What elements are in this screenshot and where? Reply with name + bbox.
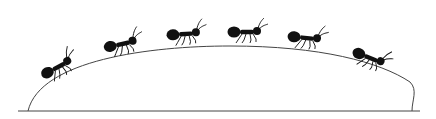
ant-4: [228, 18, 269, 43]
ant-3: [166, 18, 208, 46]
ants-over-hill-illustration: [0, 0, 436, 119]
ant-5: [286, 22, 329, 51]
ant-2: [101, 26, 146, 59]
ant-1: [35, 44, 82, 85]
